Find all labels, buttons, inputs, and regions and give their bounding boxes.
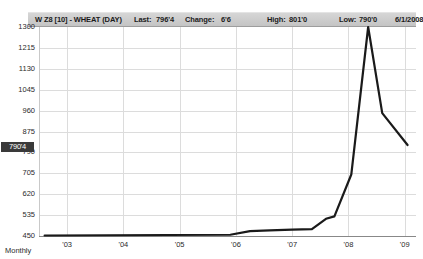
price-line xyxy=(45,27,408,236)
